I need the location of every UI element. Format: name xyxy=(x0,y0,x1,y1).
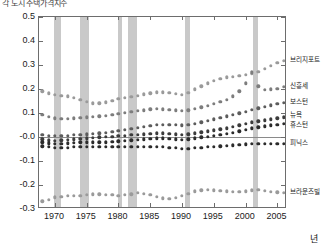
data-point xyxy=(206,82,209,85)
y-axis-tick-label: -0.3 xyxy=(0,203,35,213)
data-point xyxy=(212,189,215,192)
data-point xyxy=(257,188,260,191)
data-point xyxy=(212,102,215,105)
data-point xyxy=(91,102,94,105)
data-point xyxy=(219,77,222,80)
data-point xyxy=(60,146,63,149)
data-point xyxy=(136,138,139,141)
data-point xyxy=(142,125,145,128)
data-point xyxy=(98,145,101,148)
data-point xyxy=(66,94,69,97)
data-point xyxy=(244,82,247,85)
data-point xyxy=(149,107,152,110)
data-point xyxy=(168,108,171,111)
x-axis-title: 년 xyxy=(310,232,318,245)
series-label: 보스턴 xyxy=(290,98,308,106)
data-point xyxy=(238,143,241,146)
data-point xyxy=(91,192,94,195)
data-point xyxy=(269,64,272,67)
data-point xyxy=(231,190,234,193)
data-point xyxy=(231,113,234,116)
data-point xyxy=(110,193,113,196)
data-point xyxy=(136,94,139,97)
data-point xyxy=(231,94,234,97)
data-point xyxy=(276,87,279,90)
data-point xyxy=(98,136,101,139)
data-point xyxy=(212,129,215,132)
data-point xyxy=(263,189,266,192)
data-point xyxy=(142,192,145,195)
data-point xyxy=(123,193,126,196)
data-point xyxy=(123,139,126,142)
recession-band xyxy=(185,17,189,207)
data-point xyxy=(282,122,285,125)
data-point xyxy=(212,145,215,148)
data-point xyxy=(155,131,158,134)
data-point xyxy=(206,130,209,133)
x-axis-tick xyxy=(182,203,183,207)
data-point xyxy=(110,99,113,102)
data-point xyxy=(174,92,177,95)
series-label: 뉴욕 xyxy=(290,112,302,120)
y-axis-tick-right xyxy=(281,89,285,90)
data-point xyxy=(263,142,266,145)
y-axis-tick xyxy=(39,65,43,66)
data-point xyxy=(66,194,69,197)
data-point xyxy=(91,136,94,139)
data-point xyxy=(72,194,75,197)
data-point xyxy=(257,106,260,109)
data-point xyxy=(123,96,126,99)
data-point xyxy=(225,190,228,193)
y-axis-tick-right xyxy=(281,65,285,66)
data-point xyxy=(110,140,113,143)
data-point xyxy=(219,100,222,103)
data-point xyxy=(257,142,260,145)
data-point xyxy=(174,123,177,126)
x-axis-tick-label: 1980 xyxy=(107,211,127,221)
data-point xyxy=(238,74,241,77)
data-point xyxy=(174,146,177,149)
data-point xyxy=(98,192,101,195)
data-point xyxy=(193,122,196,125)
data-point xyxy=(269,104,272,107)
data-point xyxy=(206,145,209,148)
y-axis-tick-right xyxy=(281,17,285,18)
data-point xyxy=(257,126,260,129)
data-point xyxy=(149,137,152,140)
x-axis-tick xyxy=(246,203,247,207)
data-point xyxy=(47,115,50,118)
y-axis-tick-label: 0.1 xyxy=(0,107,35,117)
data-point xyxy=(72,141,75,144)
data-point xyxy=(244,73,247,76)
data-point xyxy=(263,105,266,108)
data-point xyxy=(123,111,126,114)
data-point xyxy=(60,117,63,120)
data-point xyxy=(110,145,113,148)
y-axis-tick-label: -0.2 xyxy=(0,179,35,189)
data-point xyxy=(168,146,171,149)
data-point xyxy=(72,145,75,148)
data-point xyxy=(40,144,43,147)
data-point xyxy=(257,84,260,87)
data-point xyxy=(193,190,196,193)
series-label: 브리지포트 xyxy=(290,56,320,64)
series-label: 휴스턴 xyxy=(290,121,308,129)
data-point xyxy=(60,94,63,97)
data-point xyxy=(238,190,241,193)
data-point xyxy=(269,88,272,91)
data-point xyxy=(104,131,107,134)
x-axis-tick-label: 1995 xyxy=(203,211,223,221)
data-point xyxy=(212,118,215,121)
data-point xyxy=(276,117,279,120)
data-point xyxy=(155,137,158,140)
data-point xyxy=(263,125,266,128)
data-point xyxy=(180,109,183,112)
data-point xyxy=(47,92,50,95)
data-point xyxy=(136,191,139,194)
data-point xyxy=(244,122,247,125)
data-point xyxy=(180,147,183,150)
x-axis-tick xyxy=(150,203,151,207)
data-point xyxy=(206,104,209,107)
y-axis-tick xyxy=(39,17,43,18)
data-point xyxy=(244,110,247,113)
